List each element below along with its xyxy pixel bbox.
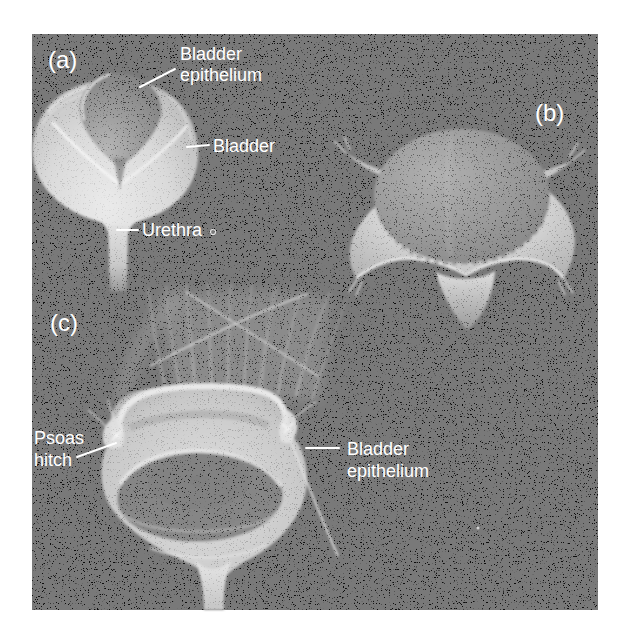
annotation-urethra-a: Urethra — [142, 220, 203, 240]
annotation-bladder-epithelium-a-line2: epithelium — [180, 65, 262, 85]
panel-a-letter: (a) — [48, 46, 77, 73]
annotation-psoas-hitch-c-line1: Psoas — [34, 428, 84, 448]
annotation-bladder-epithelium-c-line2: epithelium — [347, 461, 429, 481]
annotation-bladder-epithelium-c-line1: Bladder — [347, 439, 409, 459]
textbook-figure-page: (a) (b) (c) Bladder epithelium Bladder U… — [0, 0, 625, 644]
panel-c-letter: (c) — [50, 309, 78, 336]
psoas-hitch-figure: (a) (b) (c) Bladder epithelium Bladder U… — [0, 0, 625, 644]
annotation-bladder-a: Bladder — [213, 136, 275, 156]
annotation-bladder-epithelium-a-line1: Bladder — [180, 44, 242, 64]
panel-b-letter: (b) — [535, 99, 564, 126]
halftone-speckle-dark — [32, 34, 598, 610]
annotation-psoas-hitch-c-line2: hitch — [34, 450, 72, 470]
